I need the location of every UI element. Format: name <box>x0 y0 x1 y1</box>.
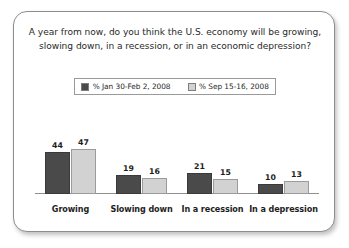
chart-title-line-1: A year from now, do you think the U.S. e… <box>26 26 324 40</box>
bar-pair: 19 16 <box>106 112 177 194</box>
bar-series-1[interactable] <box>187 173 212 194</box>
bar-series-2[interactable] <box>284 181 309 194</box>
chart-plot-area: 44 47 Growing 19 16 <box>35 112 319 220</box>
bar-pair: 44 47 <box>35 112 106 194</box>
legend-label-series-1: % Jan 30-Feb 2, 2008 <box>93 82 171 91</box>
bar-series-1[interactable] <box>116 175 141 194</box>
bar-series-2[interactable] <box>142 178 167 194</box>
bar-wrap-series-1: 19 <box>116 112 141 194</box>
bar-value-label: 44 <box>52 142 63 150</box>
chart-legend: % Jan 30-Feb 2, 2008 % Sep 15-16, 2008 <box>74 78 276 95</box>
bar-wrap-series-2: 16 <box>142 112 167 194</box>
bar-group-in-a-depression: 10 13 In a depression <box>248 112 319 220</box>
legend-item-series-2: % Sep 15-16, 2008 <box>188 82 269 91</box>
bar-series-2[interactable] <box>213 179 238 194</box>
chart-title-line-2: slowing down, in a recession, or in an e… <box>26 40 324 54</box>
bar-series-2[interactable] <box>71 149 96 194</box>
chart-card: A year from now, do you think the U.S. e… <box>13 11 335 232</box>
bar-value-label: 21 <box>194 163 205 171</box>
chart-title: A year from now, do you think the U.S. e… <box>26 26 324 53</box>
legend-swatch-dark-icon <box>81 83 89 91</box>
bar-value-label: 16 <box>149 168 160 176</box>
bar-wrap-series-1: 44 <box>45 112 70 194</box>
bar-value-label: 19 <box>123 165 134 173</box>
bar-value-label: 13 <box>291 171 302 179</box>
bar-group-in-a-recession: 21 15 In a recession <box>177 112 248 220</box>
legend-label-series-2: % Sep 15-16, 2008 <box>199 82 269 91</box>
bar-value-label: 47 <box>78 139 89 147</box>
bar-series-1[interactable] <box>45 152 70 194</box>
bar-group-slowing-down: 19 16 Slowing down <box>106 112 177 220</box>
bar-group-growing: 44 47 Growing <box>35 112 106 220</box>
bar-value-label: 10 <box>265 174 276 182</box>
category-label-in-a-depression: In a depression <box>240 204 327 214</box>
bar-wrap-series-1: 21 <box>187 112 212 194</box>
bar-value-label: 15 <box>220 169 231 177</box>
bar-wrap-series-2: 47 <box>71 112 96 194</box>
bar-pair: 21 15 <box>177 112 248 194</box>
bar-wrap-series-2: 13 <box>284 112 309 194</box>
bar-wrap-series-2: 15 <box>213 112 238 194</box>
legend-item-series-1: % Jan 30-Feb 2, 2008 <box>81 82 170 91</box>
bar-series-1[interactable] <box>258 184 283 194</box>
bar-pair: 10 13 <box>248 112 319 194</box>
bar-wrap-series-1: 10 <box>258 112 283 194</box>
legend-swatch-light-icon <box>188 83 196 91</box>
